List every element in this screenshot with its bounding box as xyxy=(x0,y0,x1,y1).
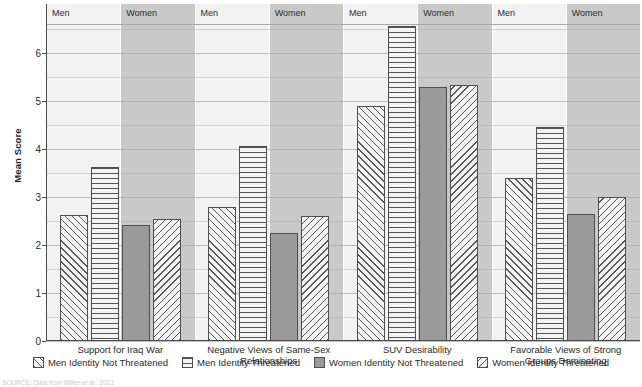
legend-item-0[interactable]: Men Identity Not Threatened xyxy=(33,357,168,368)
y-tick-label: 0 xyxy=(35,336,41,347)
legend-swatch-icon xyxy=(33,357,44,368)
legend-label: Women Identity Not Threatened xyxy=(329,357,463,368)
category-label-0: Support for Iraq War xyxy=(46,344,195,355)
gridline xyxy=(46,77,640,78)
bar xyxy=(598,197,626,341)
y-tick-mark xyxy=(42,341,46,342)
legend-item-2[interactable]: Women Identity Not Threatened xyxy=(314,357,463,368)
bar xyxy=(536,127,564,341)
bar xyxy=(239,146,267,341)
legend-swatch-icon xyxy=(182,357,193,368)
category-label-line: Favorable Views of Strong xyxy=(492,344,641,355)
y-tick-mark xyxy=(42,101,46,102)
legend-swatch-icon xyxy=(314,357,325,368)
bar xyxy=(60,215,88,341)
gridline xyxy=(46,29,640,30)
band-label: Women xyxy=(126,8,157,18)
chart-legend: Men Identity Not ThreatenedMen Identity … xyxy=(0,357,642,368)
bar xyxy=(505,178,533,341)
legend-label: Men Identity Not Threatened xyxy=(48,357,168,368)
legend-item-3[interactable]: Women Identity Threatened xyxy=(477,357,609,368)
band-label: Men xyxy=(52,8,70,18)
bar-chart: Mean Score MenWomenMenWomenMenWomenMenWo… xyxy=(0,0,642,387)
x-axis-line xyxy=(46,340,640,341)
y-tick-label: 6 xyxy=(35,47,41,58)
bar xyxy=(208,207,236,341)
bar xyxy=(388,26,416,341)
bar xyxy=(91,167,119,341)
source-note: SOURCE: Data from Willer et al., 2013 xyxy=(2,379,114,386)
y-tick-label: 5 xyxy=(35,95,41,106)
bar xyxy=(301,216,329,341)
band-label: Men xyxy=(498,8,516,18)
legend-label: Women Identity Threatened xyxy=(492,357,609,368)
y-tick-label: 1 xyxy=(35,287,41,298)
bar xyxy=(122,225,150,341)
legend-swatch-icon xyxy=(477,357,488,368)
bar xyxy=(153,219,181,341)
band-label: Women xyxy=(423,8,454,18)
gridline xyxy=(46,125,640,126)
gridline xyxy=(46,341,640,342)
y-tick-mark xyxy=(42,245,46,246)
bar xyxy=(419,87,447,341)
band-header-divider xyxy=(46,24,640,25)
band-label: Men xyxy=(349,8,367,18)
y-tick-mark xyxy=(42,149,46,150)
y-axis-title: Mean Score xyxy=(12,111,23,201)
category-label-line: SUV Desirability xyxy=(343,344,492,355)
y-tick-label: 3 xyxy=(35,191,41,202)
band-label: Women xyxy=(572,8,603,18)
y-tick-mark xyxy=(42,53,46,54)
y-tick-mark xyxy=(42,197,46,198)
legend-item-1[interactable]: Men Identity Threatened xyxy=(182,357,300,368)
category-label-line: Support for Iraq War xyxy=(46,344,195,355)
category-label-2: SUV Desirability xyxy=(343,344,492,355)
gridline xyxy=(46,101,640,102)
legend-label: Men Identity Threatened xyxy=(197,357,300,368)
y-tick-label: 4 xyxy=(35,143,41,154)
bar xyxy=(357,106,385,341)
y-tick-label: 2 xyxy=(35,239,41,250)
bar xyxy=(270,233,298,341)
band-label: Women xyxy=(275,8,306,18)
bar xyxy=(450,85,478,341)
band-label: Men xyxy=(201,8,219,18)
y-tick-mark xyxy=(42,293,46,294)
bar xyxy=(567,214,595,341)
y-axis-line xyxy=(46,4,47,341)
plot-area: MenWomenMenWomenMenWomenMenWomen 0123456 xyxy=(46,4,640,341)
gridline xyxy=(46,53,640,54)
